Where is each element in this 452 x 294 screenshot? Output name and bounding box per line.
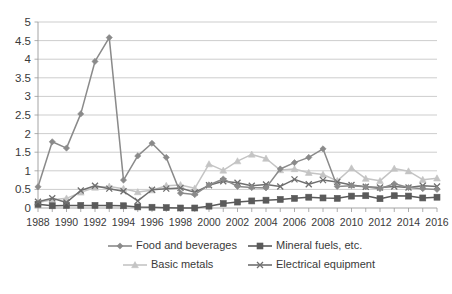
data-point-marker-square [434,194,440,200]
x-axis-tick-label: 1990 [55,216,79,228]
data-point-marker-square [320,195,326,201]
data-point-marker-square [420,195,426,201]
x-axis-tick-label: 2010 [340,216,364,228]
x-axis-tick-label: 1988 [26,216,50,228]
data-point-marker-triangle [206,161,213,167]
data-point-marker-square [249,198,255,204]
legend-item-food-and-beverages[interactable]: Food and beverages [108,239,237,251]
x-axis-tick-label: 2000 [197,216,221,228]
x-axis-tick-label: 1998 [169,216,193,228]
data-point-marker-square [349,193,355,199]
data-point-marker-diamond [78,111,84,117]
legend-label: Mineral fuels, etc. [276,239,362,251]
x-axis-tick-label: 2008 [311,216,335,228]
data-point-marker-square [263,197,269,203]
x-axis-tick-label: 1992 [83,216,107,228]
data-point-marker-square [306,194,312,200]
y-axis-tick-label: 1.5 [15,146,31,158]
y-axis-tick-label: 3 [25,90,31,102]
data-point-marker-square [121,203,127,209]
data-point-marker-x [135,198,141,204]
y-axis-tick-label: 4 [25,53,32,65]
data-point-marker-diamond [434,186,440,192]
data-point-marker-diamond [49,139,55,145]
data-point-marker-square [292,195,298,201]
data-point-marker-square [49,203,55,209]
data-point-marker-square [192,205,198,211]
data-point-marker-square [257,243,263,249]
data-point-marker-square [220,201,226,207]
x-axis-tick-label: 2002 [226,216,250,228]
data-point-marker-square [406,193,412,199]
x-axis-tick-label: 2012 [368,216,392,228]
y-axis-tick-label: 1 [25,165,31,177]
data-point-marker-square [163,205,169,211]
data-point-marker-square [277,196,283,202]
x-axis-tick-labels: 1988199019921994199619982000200220042006… [26,216,449,228]
y-axis-tick-label: 5 [25,16,31,28]
legend-item-mineral-fuels-etc[interactable]: Mineral fuels, etc. [248,239,362,251]
data-point-marker-diamond [63,145,69,151]
chart-container: 00.511.522.533.544.551988199019921994199… [0,0,452,294]
legend-label: Food and beverages [136,239,237,251]
line-chart: 00.511.522.533.544.551988199019921994199… [0,0,452,294]
data-point-marker-diamond [291,160,297,166]
data-point-marker-square [106,202,112,208]
data-point-marker-square [334,195,340,201]
y-axis-tick-label: 2 [25,128,31,140]
data-point-marker-square [363,193,369,199]
x-axis-tick-label: 1996 [140,216,164,228]
legend-item-electrical-equipment[interactable]: Electrical equipment [248,258,375,270]
data-point-marker-square [377,196,383,202]
y-axis-tick-label: 0.5 [15,183,31,195]
legend-label: Electrical equipment [276,258,375,270]
data-point-marker-square [92,202,98,208]
data-point-marker-diamond [117,243,123,249]
data-point-marker-square [235,199,241,205]
data-point-marker-triangle [348,165,355,171]
y-axis-tick-label: 2.5 [15,109,31,121]
legend-label: Basic metals [151,258,214,270]
legend: Food and beveragesMineral fuels, etc.Bas… [108,239,375,270]
x-axis-tick-label: 2016 [425,216,449,228]
data-point-marker-square [78,202,84,208]
legend-item-basic-metals[interactable]: Basic metals [123,258,214,270]
data-point-marker-square [178,205,184,211]
data-point-marker-square [206,203,212,209]
data-point-marker-diamond [377,186,383,192]
x-axis-tick-label: 1994 [112,216,136,228]
x-axis-tick-label: 2014 [397,216,421,228]
data-point-marker-square [149,204,155,210]
x-axis-tick-label: 2006 [283,216,307,228]
data-point-marker-triangle [391,165,398,171]
x-axis-tick-label: 2004 [254,216,278,228]
data-point-marker-diamond [120,177,126,183]
y-axis-tick-label: 3.5 [15,72,31,84]
data-point-marker-square [135,204,141,210]
y-axis-tick-label: 0 [25,202,31,214]
data-point-marker-diamond [35,184,41,190]
y-axis-tick-label: 4.5 [15,35,31,47]
data-point-marker-square [391,193,397,199]
